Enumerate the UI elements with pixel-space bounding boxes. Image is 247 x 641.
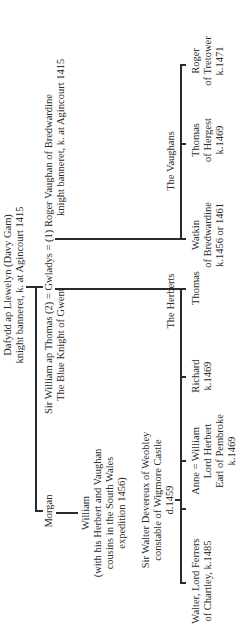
- richard-drop: [180, 377, 186, 379]
- morgan-drop-line: [35, 511, 43, 513]
- vaughan-stem-line: [55, 239, 181, 241]
- root-title: knight banneret, k. at Agincourt 1415: [14, 185, 26, 385]
- morgan-stem-line: [56, 513, 78, 515]
- roger-place: of Tretower: [202, 21, 214, 101]
- watkin-drop: [180, 239, 186, 241]
- thomas-herbert-drop: [180, 289, 186, 291]
- roger-death: k.1471: [214, 21, 226, 101]
- blue-knight-title: The Blue Knight of Gwent: [55, 261, 67, 401]
- roger-drop: [180, 65, 186, 67]
- walter-name: Walter, Lord Ferrers: [190, 521, 202, 641]
- william-herbert-earldom: Earl of Pembroke: [214, 396, 226, 506]
- walter-drop: [180, 583, 186, 585]
- william-herbert-title: Lord Herbert: [202, 396, 214, 506]
- herbert-stem-line: [55, 289, 181, 291]
- walter-title: of Chartley, k.1485: [202, 521, 214, 641]
- family-tree-diagram: Dafydd ap Llewelyn (Davy Gam) knight ban…: [0, 0, 247, 641]
- anne-drop: [180, 461, 186, 463]
- watkin-name: Watkin: [190, 185, 202, 285]
- richard-name: Richard: [190, 341, 202, 411]
- herberts-label: The Herberts: [165, 261, 177, 341]
- william-herbert-death: k.1469: [226, 396, 238, 506]
- watkin-death: k.1456 or 1461: [214, 185, 226, 285]
- richard-death: k.1469: [202, 341, 214, 411]
- roger-vaughan-title: knight banneret, k. at Agincourt 1415: [55, 16, 67, 216]
- devereux-children-bar: [180, 461, 182, 584]
- root-children-bar: [35, 287, 37, 512]
- anne-william-marriage: Anne = William: [190, 411, 202, 511]
- root-stem-line: [26, 287, 35, 289]
- thomas-vaughan-drop: [180, 144, 186, 146]
- marriage-line: Sir William ap Thomas (2) = Gwladys = (1…: [43, 14, 55, 414]
- william-note-3: expedition 1456): [116, 443, 128, 583]
- vaughan-children-bar: [180, 65, 182, 240]
- morgan-name: Morgan: [43, 491, 55, 531]
- devereux-title: constable of Wigmore Castle: [152, 415, 164, 585]
- thomas-vaughan-death: k.1469: [214, 100, 226, 180]
- devereux-name: Sir Walter Devereux of Weobley: [140, 415, 152, 585]
- vaughans-label: The Vaughans: [165, 121, 177, 201]
- william-note-2: cousins in the South Wales: [104, 443, 116, 583]
- thomas-vaughan-name: Thomas: [190, 100, 202, 180]
- watkin-place: of Bredwardine: [202, 185, 214, 285]
- roger-name: Roger: [190, 21, 202, 101]
- william-note-1: (with his Herbert and Vaughan: [92, 443, 104, 583]
- william-ap-thomas-drop-line: [35, 287, 43, 289]
- william-name: William: [80, 463, 92, 563]
- root-name: Dafydd ap Llewelyn (Davy Gam): [2, 185, 14, 385]
- thomas-vaughan-place: of Hergest: [202, 100, 214, 180]
